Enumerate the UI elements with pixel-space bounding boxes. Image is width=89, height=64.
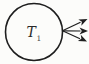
node-label-subscript: 1: [37, 34, 42, 43]
diagram-canvas: T 1: [0, 0, 89, 64]
arrow-fan: [63, 16, 89, 45]
arrow-top-icon: [63, 16, 89, 31]
node-arrow-diagram: T 1: [0, 0, 89, 64]
arrow-bottom-icon: [63, 31, 88, 45]
